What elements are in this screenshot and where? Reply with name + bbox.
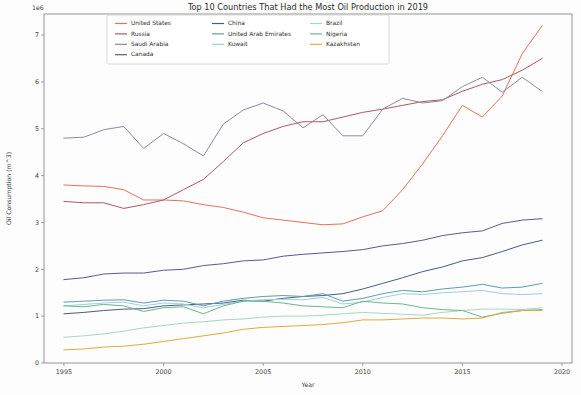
x-tick-label: 2005 xyxy=(255,368,271,376)
chart-figure: Top 10 Countries That Had the Most Oil P… xyxy=(0,0,581,395)
y-tick-label: 6 xyxy=(35,78,39,86)
y-tick-label: 0 xyxy=(35,359,39,367)
y-tick-label: 5 xyxy=(35,125,39,133)
x-tick-label: 2020 xyxy=(554,368,570,376)
legend-label-russia: Russia xyxy=(131,31,150,37)
legend-label-brazil: Brazil xyxy=(326,20,343,26)
legend-label-nigeria: Nigeria xyxy=(326,31,347,38)
y-tick-label: 4 xyxy=(35,172,39,180)
series-line-brazil xyxy=(64,308,542,338)
legend-label-kuwait: Kuwait xyxy=(228,41,248,47)
series-line-nigeria xyxy=(64,301,542,317)
x-tick-label: 1995 xyxy=(56,368,72,376)
series-line-russia xyxy=(64,59,542,209)
legend-label-china: China xyxy=(228,20,245,26)
legend-label-united-states: United States xyxy=(131,20,171,26)
series-line-united-arab-emirates xyxy=(64,283,542,305)
series-line-canada xyxy=(64,219,542,280)
series-line-saudi-arabia xyxy=(64,77,542,156)
x-tick-label: 2015 xyxy=(454,368,470,376)
legend-label-kazakhstan: Kazakhstan xyxy=(326,41,360,47)
legend-label-canada: Canada xyxy=(131,51,154,57)
legend-label-saudi-arabia: Saudi Arabia xyxy=(131,41,169,47)
y-tick-label: 2 xyxy=(35,266,39,274)
legend-label-united-arab-emirates: United Arab Emirates xyxy=(228,31,291,37)
line-chart: Top 10 Countries That Had the Most Oil P… xyxy=(0,0,581,395)
x-tick-label: 2000 xyxy=(155,368,171,376)
series-line-china xyxy=(64,240,542,314)
plot-area-border xyxy=(44,14,572,363)
y-axis-label: Oil Consumption (m^3) xyxy=(5,152,13,225)
chart-title: Top 10 Countries That Had the Most Oil P… xyxy=(187,2,428,12)
y-tick-label: 1 xyxy=(35,312,39,320)
x-axis-label: Year xyxy=(300,381,315,388)
x-tick-label: 2010 xyxy=(355,368,371,376)
y-tick-label: 7 xyxy=(35,31,39,39)
y-axis-offset-label: 1e6 xyxy=(32,4,44,11)
y-tick-label: 3 xyxy=(35,219,39,227)
series-line-kuwait xyxy=(64,290,542,307)
